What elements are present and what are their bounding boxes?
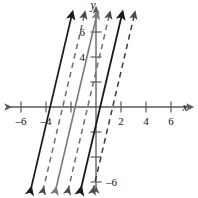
graph-line-1-solid (31, 15, 72, 191)
graph-line-6-dashed (93, 15, 134, 191)
graph-line-5-solid (81, 15, 122, 191)
graph-line-4-dashed (68, 15, 109, 191)
graph-line-2-dashed (43, 15, 84, 191)
x-axis-label: x (181, 101, 188, 113)
y-axis-label: y (89, 0, 96, 12)
coordinate-plane-figure: –6 –4 2 4 6 6 4 –6 x y (0, 0, 198, 198)
axes-group (8, 10, 190, 190)
y-tick-label-pos4: 4 (80, 51, 86, 63)
graph-canvas: –6 –4 2 4 6 6 4 –6 x y (0, 0, 198, 198)
x-tick-label-neg4: –4 (40, 115, 53, 127)
graph-line-3-solid (56, 15, 97, 191)
x-tick-label-pos4: 4 (143, 115, 149, 127)
x-tick-label-pos2: 2 (118, 115, 124, 127)
x-tick-label-neg6: –6 (15, 115, 28, 127)
x-tick-label-pos6: 6 (168, 115, 174, 127)
y-tick-label-pos6: 6 (80, 26, 86, 38)
axis-names-group: x y (89, 0, 188, 113)
y-tick-label-neg6: –6 (105, 176, 118, 188)
